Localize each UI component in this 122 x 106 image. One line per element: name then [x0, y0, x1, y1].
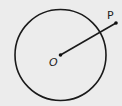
circle-diagram: O P — [0, 0, 122, 106]
label-p: P — [107, 9, 114, 22]
label-o: O — [49, 56, 58, 69]
point-p — [114, 21, 118, 25]
segment-op — [61, 23, 117, 55]
center-point-o — [59, 53, 63, 57]
